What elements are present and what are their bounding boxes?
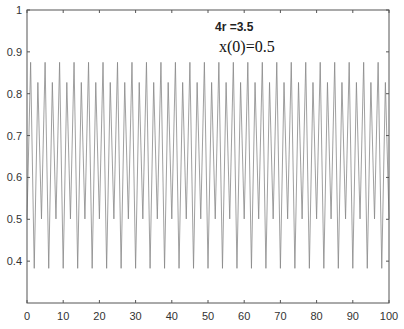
- x-tick-label: 60: [238, 310, 250, 322]
- y-tick-label: 0.4: [7, 255, 22, 267]
- y-tick-label: 0.6: [7, 171, 22, 183]
- x-tick-label: 0: [24, 310, 30, 322]
- data-series-line: [27, 62, 389, 268]
- x-tick-label: 100: [380, 310, 398, 322]
- x-tick-label: 90: [347, 310, 359, 322]
- x-tick-label: 30: [129, 310, 141, 322]
- annotation-initial-condition: x(0)=0.5: [219, 38, 275, 56]
- y-tick-label: 1: [16, 4, 22, 16]
- x-tick-label: 50: [202, 310, 214, 322]
- y-tick-label: 0.9: [7, 46, 22, 58]
- y-tick-label: 0.7: [7, 130, 22, 142]
- y-tick-label: 0.8: [7, 88, 22, 100]
- annotation-parameter: 4r =3.5: [215, 20, 253, 34]
- x-tick-label: 80: [310, 310, 322, 322]
- plot-area: [27, 62, 389, 268]
- line-chart: 01020304050607080901000.40.50.60.70.80.9…: [0, 0, 404, 329]
- x-tick-label: 70: [274, 310, 286, 322]
- x-tick-label: 20: [93, 310, 105, 322]
- y-tick-label: 0.5: [7, 213, 22, 225]
- x-tick-label: 10: [57, 310, 69, 322]
- x-tick-label: 40: [166, 310, 178, 322]
